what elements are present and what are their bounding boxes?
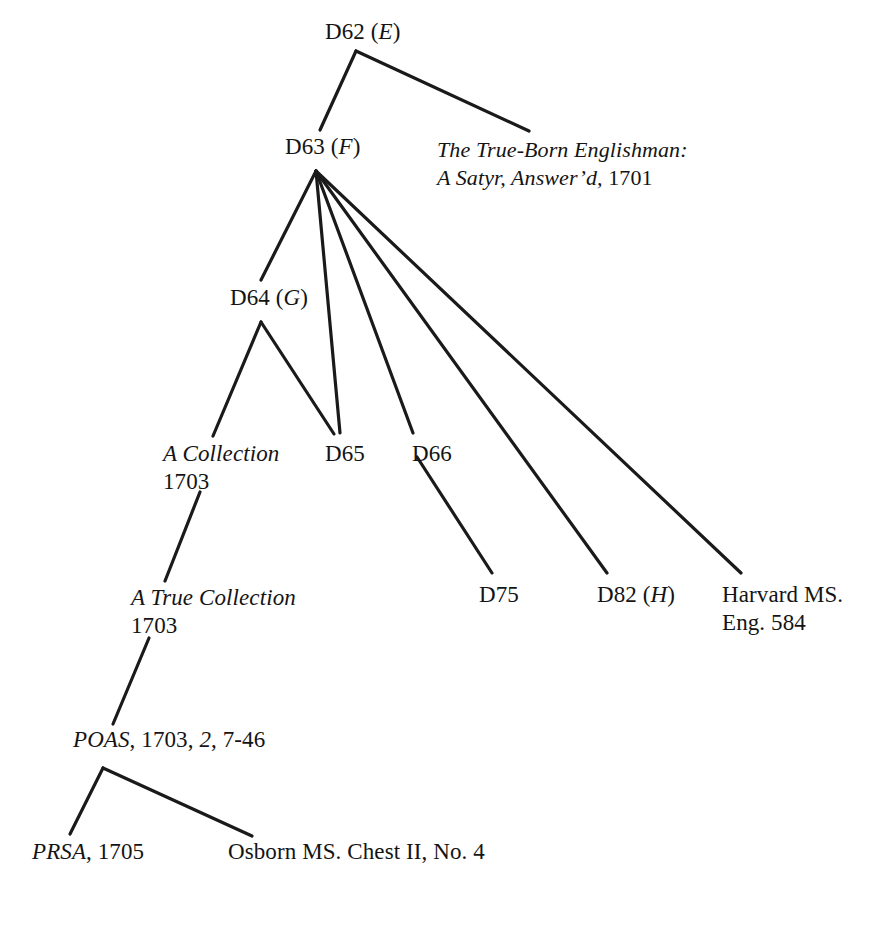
node-osborn-ms-chest-ii-no-4: Osborn MS. Chest II, No. 4 [228,838,485,866]
edge-d63-d66 [316,171,413,433]
edge-d63-d82 [316,171,607,573]
node-true-born-englishman-text: The True-Born Englishman: [437,137,688,162]
node-a-true-collection-1703-text: 1703 [131,613,177,638]
node-d62-text: ) [393,19,401,44]
node-d64-text: G [284,285,301,310]
node-poas-1703-line-1: POAS, 1703, 2, 7-46 [73,726,265,754]
node-poas-1703-text: , 7-46 [211,727,265,752]
node-poas-1703-text: POAS [73,727,130,752]
node-a-true-collection-1703-text: A True Collection [131,585,296,610]
edge-d63-d65 [316,171,340,433]
edge-poas-osborn [103,768,252,836]
node-d65: D65 [325,440,365,468]
node-d63-text: D63 ( [285,134,339,159]
node-d62: D62 (E) [325,18,400,46]
node-true-born-englishman-text: A Satyr, Answer’d, [437,165,603,190]
edge-d64-d65 [261,322,334,434]
node-d64-line-1: D64 (G) [230,284,308,312]
node-a-collection-1703-line-2: 1703 [163,468,279,496]
node-d63: D63 (F) [285,133,360,161]
node-true-born-englishman-line-1: The True-Born Englishman: [437,136,688,164]
node-d66: D66 [412,440,452,468]
node-d64-text: D64 ( [230,285,284,310]
node-osborn-ms-chest-ii-no-4-text: Osborn MS. Chest II, No. 4 [228,839,485,864]
edge-d63-d64 [261,171,316,280]
node-true-born-englishman-text: 1701 [603,165,653,190]
node-d75-text: D75 [479,582,519,607]
node-a-collection-1703: A Collection1703 [163,440,279,496]
node-a-true-collection-1703: A True Collection1703 [131,584,296,640]
node-a-collection-1703-line-1: A Collection [163,440,279,468]
node-d82-text: H [651,582,668,607]
edge-d62-d63 [320,51,356,130]
node-true-born-englishman: The True-Born Englishman:A Satyr, Answer… [437,136,688,192]
node-poas-1703-text: , 1703, [130,727,200,752]
stemma-diagram: D62 (E)D63 (F)The True-Born Englishman:A… [0,0,895,943]
node-d64-text: ) [300,285,308,310]
node-d62-text: D62 ( [325,19,379,44]
node-prsa-1705: PRSA, 1705 [32,838,144,866]
node-prsa-1705-text: , 1705 [86,839,144,864]
edge-d64-acollection [213,322,261,436]
node-a-collection-1703-text: 1703 [163,469,209,494]
node-d65-line-1: D65 [325,440,365,468]
node-harvard-ms-eng-584: Harvard MS.Eng. 584 [722,581,843,637]
node-poas-1703: POAS, 1703, 2, 7-46 [73,726,265,754]
node-d82-text: ) [667,582,675,607]
node-a-true-collection-1703-line-2: 1703 [131,612,296,640]
edge-d63-harvard [316,171,741,573]
node-d75: D75 [479,581,519,609]
node-harvard-ms-eng-584-text: Eng. 584 [722,610,806,635]
node-d62-text: E [379,19,393,44]
node-prsa-1705-line-1: PRSA, 1705 [32,838,144,866]
node-true-born-englishman-line-2: A Satyr, Answer’d, 1701 [437,164,688,192]
node-d82-line-1: D82 (H) [597,581,675,609]
node-d66-text: D66 [412,441,452,466]
node-d82: D82 (H) [597,581,675,609]
node-d75-line-1: D75 [479,581,519,609]
edge-atruecollection-poas [113,638,149,724]
node-poas-1703-text: 2 [199,727,211,752]
node-d65-text: D65 [325,441,365,466]
node-d63-line-1: D63 (F) [285,133,360,161]
edge-poas-prsa [70,768,103,834]
node-d63-text: F [339,134,353,159]
node-osborn-ms-chest-ii-no-4-line-1: Osborn MS. Chest II, No. 4 [228,838,485,866]
node-harvard-ms-eng-584-text: Harvard MS. [722,582,843,607]
node-a-collection-1703-text: A Collection [163,441,279,466]
node-d82-text: D82 ( [597,582,651,607]
node-harvard-ms-eng-584-line-1: Harvard MS. [722,581,843,609]
node-d63-text: ) [353,134,361,159]
node-harvard-ms-eng-584-line-2: Eng. 584 [722,609,843,637]
node-d62-line-1: D62 (E) [325,18,400,46]
node-d66-line-1: D66 [412,440,452,468]
node-prsa-1705-text: PRSA [32,839,86,864]
edge-d66-d75 [417,457,492,573]
edge-d62-trueborn [356,51,529,131]
node-a-true-collection-1703-line-1: A True Collection [131,584,296,612]
edge-acollection-atruecollection [165,492,200,581]
node-d64: D64 (G) [230,284,308,312]
